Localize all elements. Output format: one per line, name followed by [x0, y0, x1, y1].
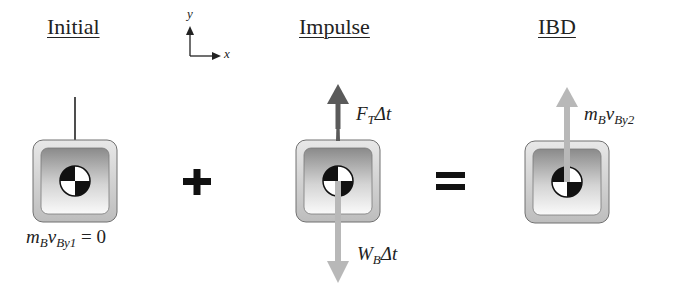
plus-operator — [183, 169, 211, 195]
weight-impulse-arrow — [335, 181, 341, 263]
axis-y-label: y — [187, 6, 193, 22]
equals-operator — [436, 172, 465, 190]
title-impulse: Impulse — [299, 14, 370, 40]
final-momentum-arrow — [564, 104, 570, 182]
final-momentum-label: mBvBy2 — [584, 103, 634, 128]
initial-momentum-label: mBvBy1 = 0 — [26, 226, 106, 251]
title-initial: Initial — [47, 14, 100, 40]
axis-x-label: x — [224, 46, 230, 62]
axes-indicator — [186, 26, 221, 60]
title-ibd: IBD — [538, 14, 576, 40]
initial-block — [33, 97, 117, 222]
tension-impulse-label: FTΔt — [356, 103, 391, 128]
weight-impulse-label: WBΔt — [357, 243, 397, 268]
